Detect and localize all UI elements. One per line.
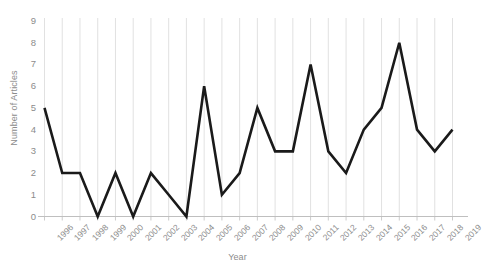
vertical-gridlines <box>45 18 453 217</box>
x-axis-title: Year <box>0 252 475 262</box>
data-series-line <box>45 43 453 217</box>
x-axis-ticks <box>45 217 453 221</box>
